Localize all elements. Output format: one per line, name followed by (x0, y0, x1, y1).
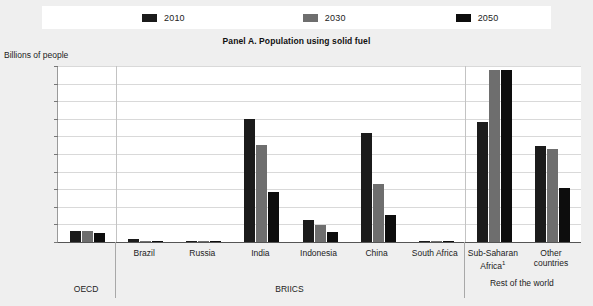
y-tick-mark (54, 154, 58, 155)
chart-plot-wrapper: 1.00.90.80.70.60.50.40.30.20.10 BrazilRu… (0, 0, 593, 306)
group-briics-label: BRIICS (115, 284, 464, 294)
bar-group-sub-saharan-africa (477, 70, 513, 242)
y-tick-mark (54, 224, 58, 225)
y-tick-mark (54, 101, 58, 102)
bar-2010-russia (186, 241, 197, 242)
y-tick-mark (54, 242, 58, 243)
bar-2030-other-countries (547, 149, 558, 242)
x-label-brazil: Brazil (115, 248, 173, 258)
y-tick-mark (54, 84, 58, 85)
group-band: OECDBRIICSRest of the world (57, 268, 580, 298)
bar-group-indonesia (303, 220, 339, 242)
x-label-china: China (348, 248, 406, 258)
bar-2030-india (256, 145, 267, 242)
bar-group-india (244, 119, 280, 242)
bar-2010-indonesia (303, 220, 314, 242)
plot-area: 1.00.90.80.70.60.50.40.30.20.10 (57, 66, 581, 243)
bar-2010-other-countries (535, 146, 546, 242)
bar-2010-south-africa (419, 241, 430, 242)
bar-2050-indonesia (327, 232, 338, 242)
group-oecd-label: OECD (57, 284, 115, 294)
bar-2050-oecd (94, 233, 105, 242)
x-label-india: India (231, 248, 289, 258)
bar-2050-other-countries (559, 188, 570, 242)
bar-2050-sub-saharan-africa (501, 70, 512, 242)
y-tick-mark (54, 172, 58, 173)
bar-2030-south-africa (431, 241, 442, 242)
x-label-indonesia: Indonesia (289, 248, 347, 258)
bar-2030-oecd (82, 231, 93, 242)
bar-2010-sub-saharan-africa (477, 122, 488, 242)
bar-2030-indonesia (315, 225, 326, 242)
x-label-other-countries: Othercountries (522, 248, 580, 268)
y-tick-mark (54, 119, 58, 120)
bar-group-brazil (128, 239, 164, 242)
bar-group-other-countries (535, 146, 571, 242)
y-tick-mark (54, 66, 58, 67)
bar-2030-sub-saharan-africa (489, 70, 500, 242)
bar-2050-china (385, 215, 396, 242)
bar-2030-russia (198, 241, 209, 242)
plot-group-separator (465, 66, 466, 242)
x-label-russia: Russia (173, 248, 231, 258)
bar-2050-south-africa (443, 241, 454, 242)
band-group-separator (464, 242, 465, 298)
gridline (58, 66, 581, 67)
bar-2010-india (244, 119, 255, 242)
bar-group-russia (186, 241, 222, 242)
bar-group-oecd (70, 231, 106, 242)
bar-2030-china (373, 184, 384, 242)
bar-2050-india (268, 192, 279, 242)
group-rest-of-world-label: Rest of the world (464, 278, 580, 288)
bar-2050-brazil (152, 241, 163, 242)
bar-2050-russia (210, 241, 221, 242)
bar-group-china (361, 133, 397, 242)
y-tick-mark (54, 207, 58, 208)
bar-2010-china (361, 133, 372, 242)
y-tick-mark (54, 189, 58, 190)
bar-2030-brazil (140, 241, 151, 242)
bar-2010-brazil (128, 239, 139, 242)
bar-group-south-africa (419, 241, 455, 242)
bar-2010-oecd (70, 231, 81, 242)
x-label-south-africa: South Africa (406, 248, 464, 258)
y-tick-mark (54, 136, 58, 137)
plot-group-separator (116, 66, 117, 242)
